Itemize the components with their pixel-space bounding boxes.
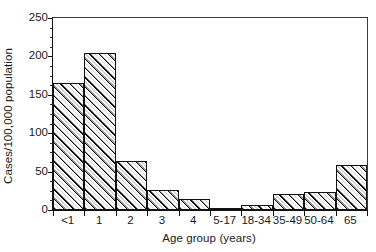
y-axis-minor-tick (50, 191, 54, 192)
y-axis-minor-tick (50, 114, 54, 115)
x-axis-tick-label: 35-49 (273, 214, 302, 226)
y-axis-tick-label: 250 (16, 11, 48, 23)
y-axis-tick-label: 50 (16, 165, 48, 177)
y-axis-minor-tick (50, 162, 54, 163)
y-axis-minor-tick (50, 200, 54, 201)
x-axis-tick-label: 5-17 (213, 214, 236, 226)
x-axis-tick-label: 65 (344, 214, 357, 226)
bar (241, 205, 272, 210)
y-axis-tick (48, 18, 53, 19)
bar (273, 194, 304, 210)
y-axis-tick-label: 150 (16, 88, 48, 100)
y-axis-minor-tick (50, 104, 54, 105)
y-axis-tick (48, 56, 53, 57)
x-axis-tick-label: 18-34 (241, 214, 270, 226)
x-axis-tick-label: 1 (96, 214, 102, 226)
x-axis-tick-label: 4 (190, 214, 196, 226)
x-axis-tick-labels: <112345-1718-3435-4950-6465 (52, 214, 366, 230)
bar (147, 190, 178, 210)
y-axis-tick-label: 0 (16, 203, 48, 215)
y-axis-tick-labels: 050100150200250 (16, 0, 48, 252)
y-axis-minor-tick (50, 76, 54, 77)
y-axis-tick (48, 95, 53, 96)
y-axis-tick (48, 133, 53, 134)
bar (210, 208, 241, 210)
x-axis-tick-label: 2 (127, 214, 133, 226)
y-axis-minor-tick (50, 47, 54, 48)
y-axis-minor-tick (50, 181, 54, 182)
x-axis-tick (367, 210, 368, 216)
y-axis-tick (48, 172, 53, 173)
y-axis-minor-tick (50, 143, 54, 144)
y-axis-minor-tick (50, 66, 54, 67)
bar (179, 199, 210, 210)
bar (336, 165, 367, 210)
y-axis-tick-label: 200 (16, 49, 48, 61)
chart-figure: Cases/100,000 population 050100150200250… (0, 0, 376, 252)
x-axis-title: Age group (years) (52, 232, 366, 244)
plot-area (52, 17, 368, 211)
bar (53, 83, 84, 210)
bar (84, 53, 115, 210)
x-axis-tick-label: 3 (159, 214, 165, 226)
y-axis-minor-tick (50, 152, 54, 153)
x-axis-tick-label: 50-64 (304, 214, 333, 226)
y-axis-minor-tick (50, 37, 54, 38)
bar (116, 161, 147, 210)
bars-layer (53, 18, 367, 210)
x-axis-tick-label: <1 (61, 214, 74, 226)
y-axis-minor-tick (50, 28, 54, 29)
y-axis-tick-label: 100 (16, 126, 48, 138)
bar (304, 192, 335, 210)
y-axis-minor-tick (50, 124, 54, 125)
y-axis-minor-tick (50, 85, 54, 86)
